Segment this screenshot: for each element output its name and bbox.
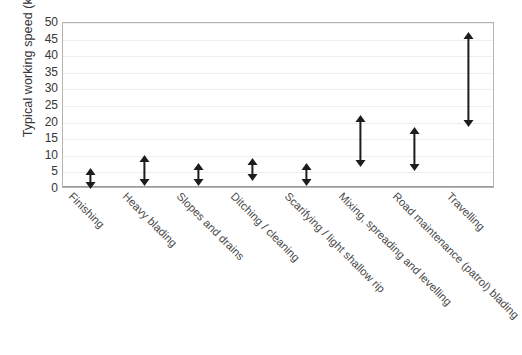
x-tick-label: Mixing, spreading and levelling [337,190,455,308]
range-shaft [143,161,145,180]
arrow-down-icon [247,174,257,181]
y-tick-label: 20 [45,115,58,129]
y-tick-label: 40 [45,48,58,62]
range-marker [354,115,367,166]
range-marker [408,127,421,172]
gridline [63,172,493,173]
x-axis-baseline [63,186,493,187]
y-tick-label: 5 [51,164,58,178]
range-marker [462,32,475,126]
range-marker [246,158,259,181]
y-tick-label: 50 [45,15,58,29]
y-tick-label: 45 [45,32,58,46]
gridline [63,139,493,140]
arrow-down-icon [193,179,203,186]
y-axis-tick-labels: 50454035302520151050 [34,22,58,188]
y-tick-label: 15 [45,131,58,145]
gridline [63,73,493,74]
y-tick-label: 30 [45,81,58,95]
range-marker [192,163,205,186]
gridline [63,156,493,157]
gridline [63,56,493,57]
y-tick-label: 10 [45,148,58,162]
range-marker [300,163,313,186]
x-tick-label: Heavy blading [121,190,180,249]
y-tick-label: 35 [45,65,58,79]
y-tick-label: 25 [45,98,58,112]
gridline [63,23,493,24]
arrow-down-icon [139,179,149,186]
gridline [63,89,493,90]
y-axis-title: Typical working speed (km/h) [21,0,35,145]
range-marker [84,168,97,189]
gridline [63,123,493,124]
arrow-down-icon [463,120,473,127]
range-shaft [359,122,361,161]
arrow-down-icon [409,164,419,171]
x-tick-label: Travelling [445,190,488,233]
range-marker [138,155,151,186]
arrow-down-icon [85,182,95,189]
x-axis-tick-labels: FinishingHeavy bladingSlopes and drainsD… [0,190,511,350]
x-tick-label: Finishing [67,190,107,230]
gridline [63,40,493,41]
plot-area [62,22,494,188]
arrow-down-icon [355,160,365,167]
gridline [63,106,493,107]
x-tick-label: Scarifying / light shallow rip [283,190,388,295]
range-shaft [413,133,415,165]
arrow-down-icon [301,179,311,186]
range-shaft [467,39,469,121]
